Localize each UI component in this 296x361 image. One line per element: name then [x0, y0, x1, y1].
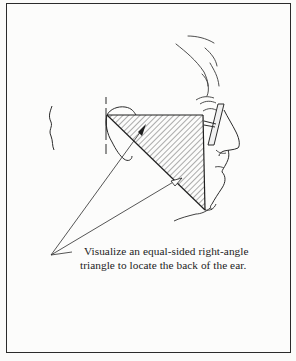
ear-placement-diagram [0, 0, 296, 361]
back-of-head-curve [49, 106, 54, 150]
hair-strokes [176, 36, 219, 96]
brow-sketch [196, 97, 216, 111]
caption-line-1: Visualize an equal-sided right-angle [80, 244, 280, 258]
eyeglasses [204, 104, 224, 145]
mouth-line [215, 167, 224, 168]
figure-caption: Visualize an equal-sided right-angle tri… [80, 244, 280, 272]
caption-line-2: triangle to locate the back of the ear. [80, 258, 280, 272]
